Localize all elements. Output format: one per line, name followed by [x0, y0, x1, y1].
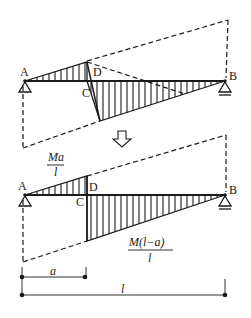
bottom-label-b: B	[229, 183, 237, 197]
svg-text:l: l	[54, 165, 58, 179]
top-label-d: D	[93, 65, 102, 79]
left-moment-value: Ma l	[47, 150, 64, 179]
bottom-label-d: D	[89, 180, 98, 194]
top-label-a: A	[20, 65, 29, 79]
svg-text:Ma: Ma	[47, 150, 64, 164]
top-label-b: B	[229, 69, 237, 83]
diagram-canvas: A B C D A B C D M	[0, 0, 251, 318]
bottom-label-c: C	[76, 195, 84, 209]
dimension-l-label: l	[121, 282, 125, 296]
dimension-lines: a l	[20, 264, 228, 297]
right-moment-value: M(l−a) l	[128, 235, 173, 265]
svg-text:M(l−a): M(l−a)	[128, 235, 164, 249]
svg-text:l: l	[148, 251, 152, 265]
top-triangle-cb	[87, 81, 225, 121]
dimension-a-label: a	[50, 264, 56, 278]
down-arrow-icon	[113, 131, 131, 147]
bottom-diagram: A B C D Ma l M(l−a) l	[18, 135, 237, 265]
top-diagram: A B C D	[19, 20, 237, 148]
top-triangle-ad	[25, 62, 87, 81]
top-label-c: C	[82, 86, 90, 100]
bottom-label-a: A	[18, 179, 27, 193]
